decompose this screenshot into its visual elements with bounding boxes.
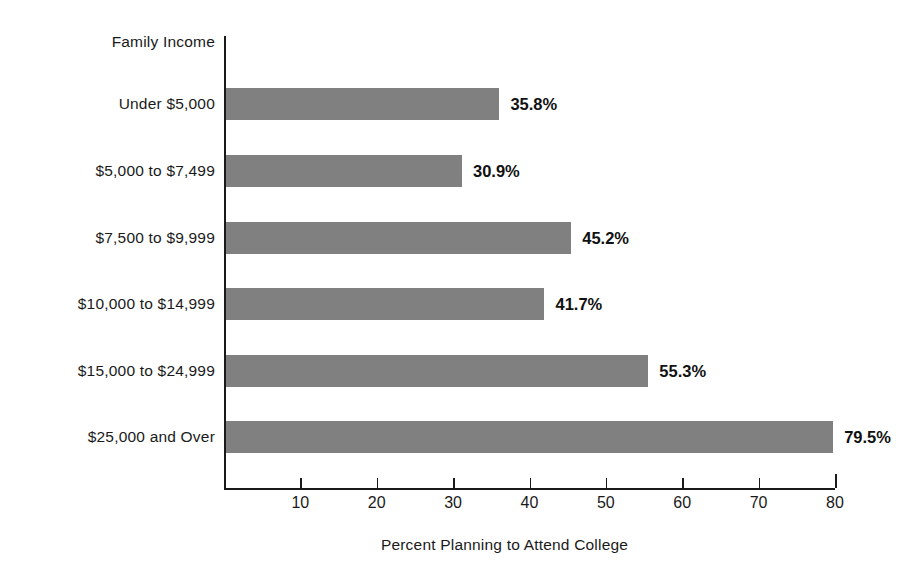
x-tick-label-60: 60 (662, 494, 702, 512)
bar-1 (226, 155, 462, 187)
category-label-0: Under $5,000 (119, 94, 215, 114)
x-tick-label-10: 10 (280, 494, 320, 512)
x-tick-label-80: 80 (815, 494, 855, 512)
plot-area: 35.8% 30.9% 45.2% 41.7% 55.3% 79.5% 10 2… (224, 36, 836, 490)
bar-value-0: 35.8% (510, 88, 557, 120)
x-tick-label-50: 50 (586, 494, 626, 512)
x-tick-label-70: 70 (739, 494, 779, 512)
bar-3 (226, 288, 544, 320)
bar-chart: Family Income Under $5,000 $5,000 to $7,… (0, 0, 917, 585)
bar-value-4: 55.3% (659, 355, 706, 387)
bar-2 (226, 222, 571, 254)
bar-value-5: 79.5% (844, 421, 891, 453)
bar-0 (226, 88, 499, 120)
bar-value-3: 41.7% (555, 288, 602, 320)
x-tick-label-40: 40 (510, 494, 550, 512)
bar-4 (226, 355, 648, 387)
x-axis-title-text: Percent Planning to Attend College (381, 536, 628, 553)
x-tick-20 (377, 478, 379, 488)
x-tick-30 (453, 478, 455, 488)
x-axis-line (224, 488, 835, 490)
bar-value-1: 30.9% (473, 155, 520, 187)
x-axis-title: Percent Planning to Attend College (0, 536, 917, 554)
bar-5 (226, 421, 833, 453)
category-label-3: $10,000 to $14,999 (78, 294, 215, 314)
bar-value-2: 45.2% (582, 222, 629, 254)
x-tick-70 (759, 478, 761, 488)
category-axis-title: Family Income (112, 33, 215, 51)
x-tick-60 (682, 478, 684, 488)
category-label-5: $25,000 and Over (88, 427, 215, 447)
x-tick-label-30: 30 (433, 494, 473, 512)
x-tick-50 (606, 478, 608, 488)
x-tick-80 (835, 474, 837, 488)
x-tick-10 (300, 478, 302, 488)
category-label-1: $5,000 to $7,499 (95, 161, 215, 181)
category-label-4: $15,000 to $24,999 (78, 361, 215, 381)
x-tick-label-20: 20 (357, 494, 397, 512)
x-tick-40 (530, 478, 532, 488)
category-label-2: $7,500 to $9,999 (95, 228, 215, 248)
